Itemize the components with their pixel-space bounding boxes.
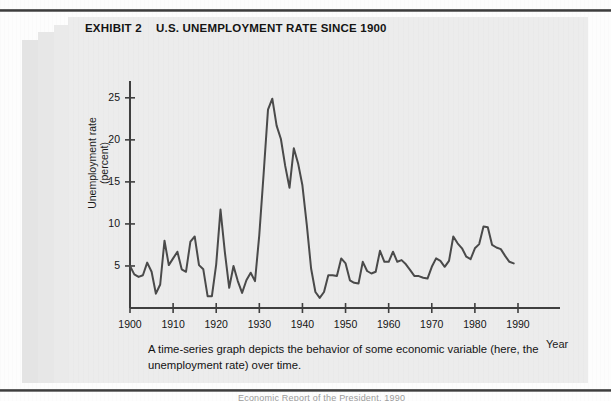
x-tick-label-1990: 1990 bbox=[498, 318, 538, 330]
exhibit-caption: A time-series graph depicts the behavior… bbox=[148, 342, 568, 373]
unemployment-rate-series bbox=[130, 99, 514, 298]
footer-source-text: Economic Report of the President, 1990 bbox=[238, 393, 538, 401]
x-tick-label-1950: 1950 bbox=[326, 318, 366, 330]
x-tick-label-1910: 1910 bbox=[153, 318, 193, 330]
x-tick-label-1980: 1980 bbox=[455, 318, 495, 330]
y-tick-label-5: 5 bbox=[94, 259, 120, 271]
top-divider-rule bbox=[0, 9, 611, 12]
y-tick-label-15: 15 bbox=[94, 175, 120, 187]
exhibit-title-text: U.S. UNEMPLOYMENT RATE SINCE 1900 bbox=[156, 22, 387, 34]
x-tick-label-1960: 1960 bbox=[369, 318, 409, 330]
exhibit-number-label: EXHIBIT 2 bbox=[85, 22, 142, 34]
x-tick-label-1920: 1920 bbox=[196, 318, 236, 330]
exhibit-page: EXHIBIT 2 U.S. UNEMPLOYMENT RATE SINCE 1… bbox=[0, 0, 611, 401]
x-tick-label-1930: 1930 bbox=[239, 318, 279, 330]
unemployment-line-chart bbox=[68, 43, 588, 333]
y-tick-label-20: 20 bbox=[94, 133, 120, 145]
x-tick-label-1970: 1970 bbox=[412, 318, 452, 330]
exhibit-panel: EXHIBIT 2 U.S. UNEMPLOYMENT RATE SINCE 1… bbox=[68, 17, 588, 383]
x-tick-label-1940: 1940 bbox=[282, 318, 322, 330]
y-tick-label-10: 10 bbox=[94, 217, 120, 229]
exhibit-title-row: EXHIBIT 2 U.S. UNEMPLOYMENT RATE SINCE 1… bbox=[68, 17, 588, 43]
x-tick-label-1900: 1900 bbox=[110, 318, 150, 330]
chart-area: Unemployment rate(percent) Year 51015202… bbox=[68, 43, 588, 333]
y-tick-label-25: 25 bbox=[94, 91, 120, 103]
bottom-divider-rule bbox=[0, 389, 611, 392]
